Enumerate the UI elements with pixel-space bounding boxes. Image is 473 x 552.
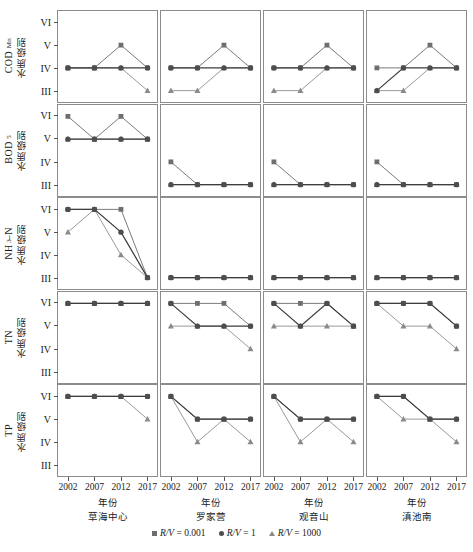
plot-area — [264, 385, 363, 476]
plot-area — [367, 105, 466, 196]
x-tick-mark — [353, 477, 354, 481]
data-point-circle — [374, 300, 379, 305]
y-tick-label: VI — [29, 297, 51, 308]
legend-item: R/V = 0.001 — [152, 528, 206, 538]
panel-codmn-dianchinan — [366, 10, 467, 103]
y-tick-mark — [54, 209, 58, 210]
series-line-square — [377, 45, 457, 68]
data-point-circle — [401, 181, 406, 186]
panel-tp-guanyinshan — [263, 384, 364, 477]
y-tick-label: III — [29, 366, 51, 377]
row-unit-label: 水质级别 — [15, 223, 29, 265]
data-point-circle — [374, 88, 379, 93]
column-site-label: 罗家营 — [196, 509, 226, 523]
data-point-circle — [221, 181, 226, 186]
x-tick-mark — [121, 477, 122, 481]
data-point-circle — [145, 136, 150, 141]
y-tick-label: IV — [29, 437, 51, 448]
plot-area — [58, 292, 157, 383]
data-point-circle — [351, 275, 356, 280]
data-point-circle — [454, 416, 459, 421]
x-tick-label: 2007 — [188, 482, 207, 492]
y-tick-label: VI — [29, 16, 51, 27]
data-point-circle — [65, 207, 70, 212]
data-point-circle — [427, 181, 432, 186]
y-tick-mark — [54, 442, 58, 443]
plot-area — [264, 198, 363, 289]
data-point-circle — [298, 65, 303, 70]
triangle-marker — [269, 531, 275, 536]
data-point-circle — [427, 275, 432, 280]
data-point-circle — [65, 300, 70, 305]
y-tick-label: V — [29, 413, 51, 424]
data-point-circle — [374, 181, 379, 186]
data-point-circle — [427, 416, 432, 421]
data-point-circle — [92, 136, 97, 141]
legend-label: R/V = 1 — [227, 528, 256, 538]
data-point-circle — [118, 300, 123, 305]
x-tick-mark — [224, 477, 225, 481]
data-point-circle — [195, 65, 200, 70]
x-axis-title: 年份 — [304, 495, 324, 509]
y-tick-label: V — [29, 226, 51, 237]
plot-area — [161, 198, 260, 289]
y-tick-mark — [54, 349, 58, 350]
data-point-square — [195, 300, 200, 305]
data-point-circle — [92, 300, 97, 305]
data-point-circle — [324, 275, 329, 280]
data-point-circle — [195, 416, 200, 421]
data-point-circle — [65, 65, 70, 70]
x-tick-label: 2002 — [161, 482, 180, 492]
data-point-square — [119, 113, 124, 118]
panel-nh3n-caohai — [57, 197, 158, 290]
y-tick-mark — [54, 185, 58, 186]
y-tick-mark — [54, 396, 58, 397]
row-metric-label: NH3–N — [3, 227, 14, 260]
panel-tp-luojiaying — [160, 384, 261, 477]
data-point-square — [325, 43, 330, 48]
data-point-circle — [221, 323, 226, 328]
data-point-circle — [374, 275, 379, 280]
x-tick-label: 2017 — [138, 482, 157, 492]
series-line-triangle — [68, 396, 148, 419]
panel-tn-luojiaying — [160, 291, 261, 384]
series-line-triangle — [377, 68, 457, 91]
row-unit-label: 水质级别 — [15, 129, 29, 171]
series-line-square — [274, 161, 354, 184]
data-point-circle — [401, 394, 406, 399]
plot-area — [264, 105, 363, 196]
y-tick-mark — [54, 419, 58, 420]
y-tick-label: III — [29, 86, 51, 97]
data-point-circle — [324, 300, 329, 305]
panel-tn-dianchinan — [366, 291, 467, 384]
data-point-circle — [351, 416, 356, 421]
column-site-label: 观音山 — [299, 509, 329, 523]
x-axis-title: 年份 — [98, 495, 118, 509]
plot-area — [58, 198, 157, 289]
series-line-triangle — [68, 209, 148, 277]
panel-tp-dianchinan — [366, 384, 467, 477]
plot-area — [367, 385, 466, 476]
data-point-circle — [454, 181, 459, 186]
data-point-circle — [298, 323, 303, 328]
series-line-square — [377, 161, 457, 184]
y-tick-mark — [54, 68, 58, 69]
series-line-square — [171, 396, 251, 419]
x-axis-luojiaying: 2002200720122017年份罗家营 — [160, 477, 261, 525]
data-point-circle — [118, 136, 123, 141]
x-tick-label: 2002 — [367, 482, 386, 492]
chart-figure: VIVIVIII水质级别CODMnVIVIVIII水质级别BOD5VIVIVII… — [0, 0, 473, 552]
data-point-circle — [298, 275, 303, 280]
data-point-square — [169, 159, 174, 164]
x-tick-mark — [250, 477, 251, 481]
y-tick-label: IV — [29, 343, 51, 354]
data-point-circle — [221, 275, 226, 280]
panel-nh3n-dianchinan — [366, 197, 467, 290]
x-tick-mark — [430, 477, 431, 481]
data-point-circle — [271, 65, 276, 70]
data-point-circle — [248, 65, 253, 70]
x-tick-mark — [377, 477, 378, 481]
y-tick-label: VI — [29, 390, 51, 401]
data-point-circle — [195, 275, 200, 280]
circle-marker — [219, 531, 224, 536]
